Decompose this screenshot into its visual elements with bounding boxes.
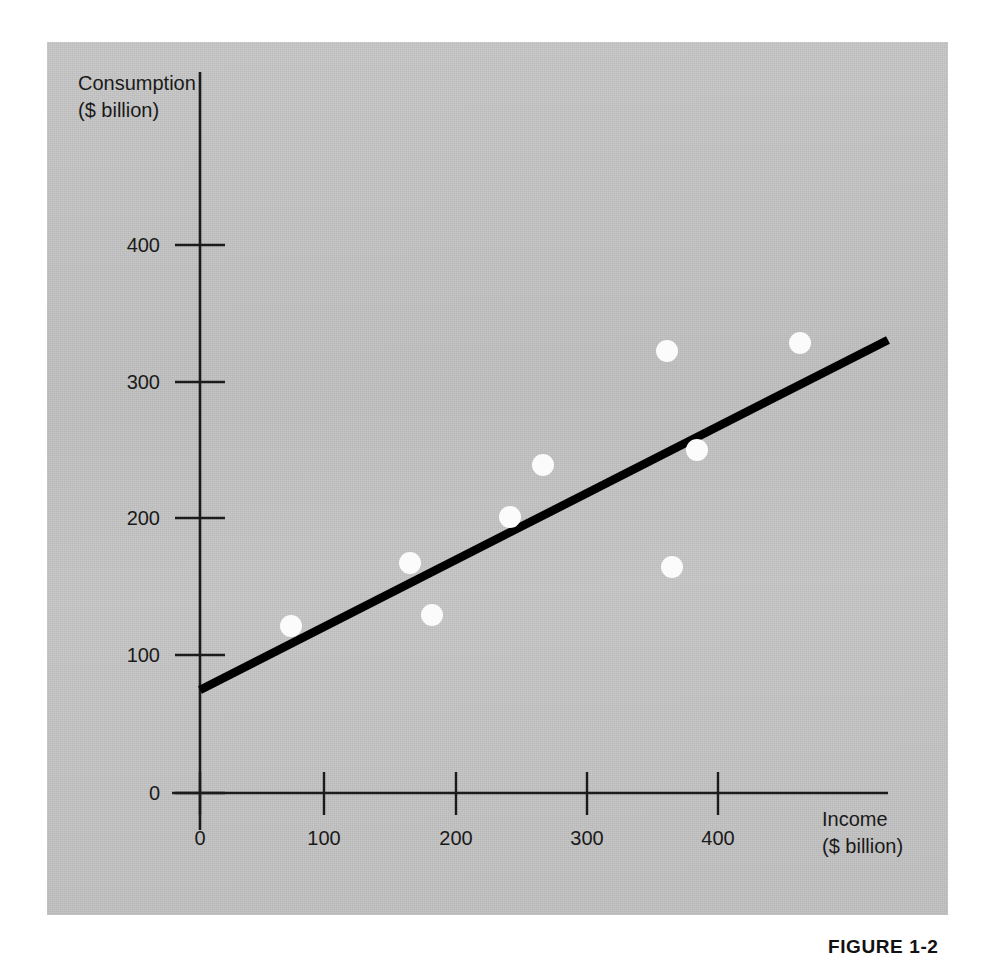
data-point xyxy=(280,615,302,637)
data-point xyxy=(399,552,421,574)
x-tick-label-300: 300 xyxy=(570,827,603,849)
x-tick-label-0: 0 xyxy=(194,827,205,849)
y-axis-title: Consumption xyxy=(78,72,196,94)
data-point xyxy=(421,604,443,626)
regression-line xyxy=(200,340,888,690)
y-tick-label-300: 300 xyxy=(127,371,160,393)
data-point xyxy=(532,454,554,476)
x-axis-title-units: ($ billion) xyxy=(822,835,903,857)
data-point xyxy=(499,506,521,528)
x-tick-label-200: 200 xyxy=(439,827,472,849)
y-axis-title-units: ($ billion) xyxy=(78,99,159,121)
y-tick-label-100: 100 xyxy=(127,644,160,666)
x-axis-title: Income xyxy=(822,808,888,830)
y-tick-label-0: 0 xyxy=(149,782,160,804)
data-point xyxy=(686,439,708,461)
x-tick-label-400: 400 xyxy=(701,827,734,849)
y-tick-label-200: 200 xyxy=(127,507,160,529)
figure-caption: FIGURE 1-2 xyxy=(828,936,939,958)
data-point xyxy=(661,556,683,578)
x-tick-label-100: 100 xyxy=(307,827,340,849)
data-point xyxy=(656,340,678,362)
scatter-plot: 400 300 200 100 0 0 100 200 300 400 Cons… xyxy=(0,0,996,975)
y-tick-label-400: 400 xyxy=(127,234,160,256)
data-points xyxy=(280,332,811,637)
data-point xyxy=(789,332,811,354)
